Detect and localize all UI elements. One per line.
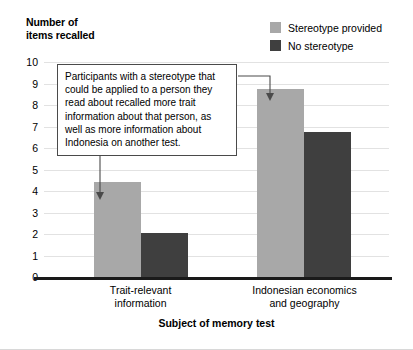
legend-label-stereotype-provided: Stereotype provided bbox=[288, 22, 382, 34]
y-axis-tick-label: 2 bbox=[32, 228, 38, 240]
bar-chart-figure: Number of items recalled Stereotype prov… bbox=[0, 0, 413, 350]
gridline bbox=[44, 62, 389, 63]
bar bbox=[257, 89, 304, 277]
y-axis-tick-label: 8 bbox=[32, 99, 38, 111]
x-axis-line bbox=[34, 277, 392, 280]
chart-legend: Stereotype provided No stereotype bbox=[270, 20, 382, 56]
x-axis-title: Subject of memory test bbox=[44, 317, 389, 329]
y-axis-title: Number of items recalled bbox=[26, 16, 95, 41]
y-axis-tick-label: 5 bbox=[32, 164, 38, 176]
callout-annotation: Participants with a stereotype that coul… bbox=[57, 64, 237, 156]
y-axis-tick-label: 4 bbox=[32, 185, 38, 197]
legend-item-stereotype-provided: Stereotype provided bbox=[270, 20, 382, 35]
bar bbox=[141, 233, 188, 277]
legend-label-no-stereotype: No stereotype bbox=[288, 40, 353, 52]
bar bbox=[304, 132, 351, 277]
bar bbox=[94, 182, 141, 277]
x-axis-group-label: Trait-relevant information bbox=[51, 284, 231, 310]
legend-swatch-no-stereotype bbox=[270, 40, 281, 51]
y-axis-tick-label: 7 bbox=[32, 121, 38, 133]
y-axis-tick-label: 3 bbox=[32, 207, 38, 219]
x-axis-group-label: Indonesian economics and geography bbox=[214, 284, 394, 310]
y-axis-tick-label: 9 bbox=[32, 78, 38, 90]
legend-item-no-stereotype: No stereotype bbox=[270, 38, 382, 53]
y-axis-tick-label: 1 bbox=[32, 250, 38, 262]
legend-swatch-stereotype-provided bbox=[270, 22, 281, 33]
y-axis-tick-label: 10 bbox=[26, 56, 38, 68]
y-axis-tick-label: 6 bbox=[32, 142, 38, 154]
